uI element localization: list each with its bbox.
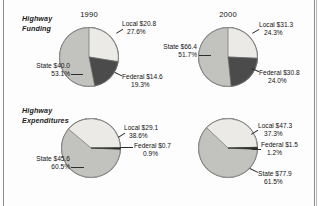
callout-federal-expenditures-1990: Federal $0.7 0.9% [134,142,171,158]
callout-state-expenditures-2000-pct: 61.5% [258,178,292,186]
callout-federal-funding-1990-value: Federal $14.6 [122,73,163,81]
callout-local-funding-2000-value: Local $31.3 [259,21,293,29]
callout-state-funding-2000-pct: 51.7% [143,51,197,59]
row-label-funding-line1: Highway [22,14,52,24]
callout-local-expenditures-1990: Local $29.1 38.6% [124,124,158,140]
callout-federal-funding-1990: Federal $14.6 19.3% [122,73,163,89]
callout-local-expenditures-2000-value: Local $47.3 [258,122,292,130]
leader-state-expenditures-1990 [71,167,84,168]
leader-federal-expenditures-2000 [252,149,261,150]
callout-local-funding-2000-pct: 24.3% [259,29,293,37]
callout-state-expenditures-1990-value: State $45.6 [12,155,70,163]
column-header-2000: 2000 [208,10,248,19]
callout-state-funding-1990: State $40.0 53.1% [14,62,70,78]
callout-local-funding-1990-value: Local $20.8 [122,20,156,28]
callout-federal-expenditures-2000-pct: 1.2% [261,149,298,157]
leader-state-funding-1990 [71,74,83,75]
slice-local-funding-1990 [89,28,118,62]
row-label-funding-line2: Funding [22,24,52,34]
callout-local-funding-1990-pct: 27.6% [122,28,156,36]
leader-federal-expenditures-1990 [120,147,133,148]
callout-local-expenditures-2000: Local $47.3 37.3% [258,122,292,138]
callout-federal-funding-1990-pct: 19.3% [122,81,163,89]
callout-federal-expenditures-1990-pct: 0.9% [134,150,171,158]
callout-federal-funding-2000-value: Federal $30.8 [259,69,300,77]
callout-state-funding-2000: State $66.4 51.7% [143,43,197,59]
callout-local-expenditures-1990-value: Local $29.1 [124,124,158,132]
callout-federal-expenditures-1990-value: Federal $0.7 [134,142,171,150]
frame-right-rule [314,0,315,206]
pie-funding-2000-svg [198,27,258,87]
callout-state-expenditures-1990-pct: 60.5% [12,163,70,171]
callout-federal-funding-2000: Federal $30.8 24.0% [259,69,300,85]
frame-right-rule-outer [316,0,317,206]
pie-chart-funding-2000 [198,27,258,87]
callout-state-funding-1990-pct: 53.1% [14,70,70,78]
row-label-highway-funding: Highway Funding [22,14,52,33]
callout-local-expenditures-2000-pct: 37.3% [258,130,292,138]
callout-state-funding-2000-value: State $66.4 [143,43,197,51]
column-header-1990: 1990 [69,10,109,19]
frame-left-rule [3,0,4,206]
callout-state-expenditures-1990: State $45.6 60.5% [12,155,70,171]
row-label-expenditures-line1: Highway [22,106,69,116]
callout-federal-expenditures-2000: Federal $1.5 1.2% [261,141,298,157]
pie-chart-expenditures-1990 [61,118,121,178]
callout-state-funding-1990-value: State $40.0 [14,62,70,70]
callout-federal-funding-2000-pct: 24.0% [259,77,300,85]
callout-state-expenditures-2000-value: State $77.9 [258,170,292,178]
callout-federal-expenditures-2000-value: Federal $1.5 [261,141,298,149]
pie-expenditures-1990-svg [61,118,121,178]
callout-state-expenditures-2000: State $77.9 61.5% [258,170,292,186]
leader-state-funding-2000 [199,55,211,56]
slice-federal-funding-2000 [228,57,257,86]
callout-local-funding-2000: Local $31.3 24.3% [259,21,293,37]
callout-local-expenditures-1990-pct: 38.6% [124,132,158,140]
callout-local-funding-1990: Local $20.8 27.6% [122,20,156,36]
pie-chart-figure: Highway Funding Highway Expenditures 199… [0,0,319,206]
